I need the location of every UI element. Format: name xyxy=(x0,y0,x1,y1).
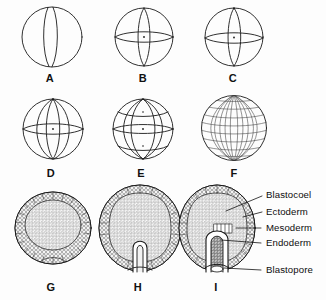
panel-letter-a: A xyxy=(35,72,65,84)
embryo-development-figure: A B C D E F G H I Blastocoel Ectoderm Me… xyxy=(0,0,326,300)
panel-letter-d: D xyxy=(36,167,66,179)
embryo-stage-d xyxy=(23,99,83,160)
callout-label-blastocoel: Blastocoel xyxy=(266,189,311,200)
embryo-stage-c xyxy=(205,7,263,66)
embryo-stage-g xyxy=(15,192,91,264)
panel-letter-g: G xyxy=(36,281,66,293)
panel-letter-e: E xyxy=(126,167,156,179)
panel-letter-i: I xyxy=(201,281,231,293)
callout-label-mesoderm: Mesoderm xyxy=(266,222,312,233)
panel-letter-h: H xyxy=(123,281,153,293)
embryo-stage-i xyxy=(179,185,255,272)
callout-label-blastopore: Blastopore xyxy=(266,264,313,275)
embryo-stage-e xyxy=(113,99,173,159)
embryo-stage-a xyxy=(22,7,82,67)
embryo-stage-f xyxy=(196,95,272,161)
callout-label-ectoderm: Ectoderm xyxy=(266,206,308,217)
embryo-drawings-canvas xyxy=(0,0,326,300)
embryo-stage-h xyxy=(99,185,181,272)
panel-letter-b: B xyxy=(128,72,158,84)
callout-label-endoderm: Endoderm xyxy=(266,237,311,248)
embryo-stage-b xyxy=(115,8,173,66)
panel-letter-c: C xyxy=(218,72,248,84)
panel-letter-f: F xyxy=(219,167,249,179)
